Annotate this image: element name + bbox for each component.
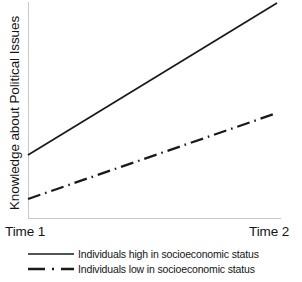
series-line-high-ses (28, 3, 277, 155)
line-chart-figure: Knowledge about Political Issues Time 1 … (0, 0, 302, 282)
series-line-low-ses (28, 113, 277, 199)
x-tick-label-time-1: Time 1 (5, 224, 45, 239)
legend-label-low-ses: Individuals low in socioeconomic status (78, 263, 298, 275)
x-tick-label-time-2: Time 2 (249, 224, 289, 239)
legend-swatch-dash-dot-icon (28, 263, 75, 275)
chart-legend: Individuals high in socioeconomic status… (28, 246, 298, 276)
legend-item-high-ses: Individuals high in socioeconomic status (28, 246, 298, 261)
legend-label-high-ses: Individuals high in socioeconomic status (78, 248, 298, 260)
legend-item-low-ses: Individuals low in socioeconomic status (28, 261, 298, 276)
plot-area (0, 0, 302, 282)
legend-swatch-solid-icon (28, 248, 75, 260)
